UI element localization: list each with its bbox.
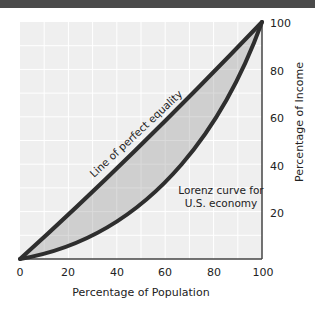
y-tick-60: 60 — [270, 112, 284, 125]
lorenz-chart: Line of perfect equality Lorenz curve fo… — [0, 0, 315, 317]
x-tick-60: 60 — [158, 266, 172, 279]
x-axis-title: Percentage of Population — [72, 286, 209, 299]
lorenz-label-line2: U.S. economy — [185, 197, 258, 209]
x-tick-100: 100 — [253, 266, 274, 279]
lorenz-label-line1: Lorenz curve for — [178, 184, 264, 196]
y-tick-100: 100 — [270, 17, 291, 30]
y-tick-40: 40 — [270, 160, 284, 173]
x-tick-20: 20 — [61, 266, 75, 279]
x-tick-80: 80 — [207, 266, 221, 279]
x-tick-0: 0 — [17, 266, 24, 279]
y-axis-title: Percentage of Income — [293, 62, 306, 182]
y-tick-80: 80 — [270, 65, 284, 78]
y-tick-20: 20 — [270, 207, 284, 220]
x-tick-40: 40 — [110, 266, 124, 279]
